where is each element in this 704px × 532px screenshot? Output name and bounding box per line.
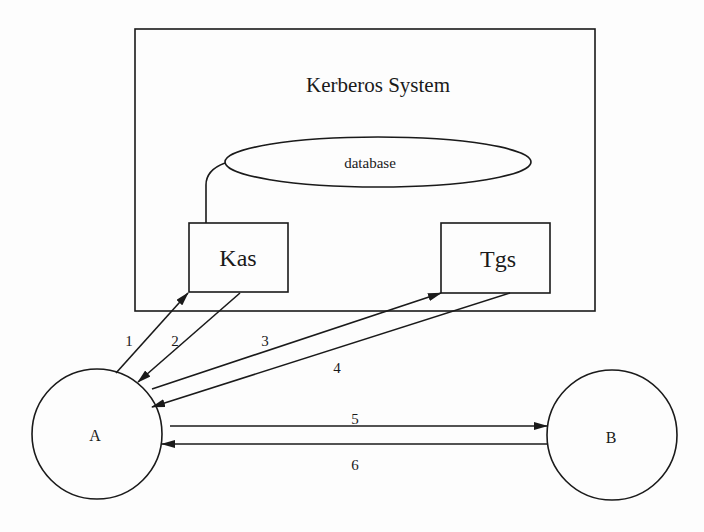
kas-database-connector — [206, 163, 225, 223]
node-b-label: B — [606, 429, 617, 446]
message-3-arrow — [152, 293, 441, 389]
node-a-label: A — [89, 427, 101, 444]
message-4-arrow — [152, 293, 510, 407]
message-1-label: 1 — [125, 333, 133, 349]
tgs-label: Tgs — [480, 246, 516, 272]
message-3-label: 3 — [261, 333, 269, 349]
kas-label: Kas — [219, 245, 256, 271]
kerberos-diagram: Kerberos System database Kas Tgs A B 1 2… — [0, 0, 704, 532]
message-2-label: 2 — [171, 333, 179, 349]
message-6-label: 6 — [351, 457, 359, 473]
message-2-arrow — [138, 293, 240, 382]
message-4-label: 4 — [333, 360, 341, 376]
message-5-label: 5 — [351, 411, 359, 427]
database-label: database — [344, 155, 396, 171]
kerberos-system-title: Kerberos System — [306, 73, 450, 97]
